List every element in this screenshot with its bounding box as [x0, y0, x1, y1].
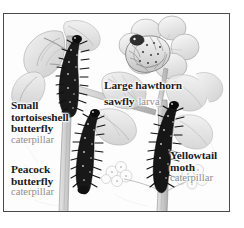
label-small-tortoiseshell-line1: Small: [11, 100, 103, 112]
label-yellowtail-moth: Yellowtail moth caterpillar: [170, 150, 230, 184]
label-small-tortoiseshell-stage: caterpillar: [11, 135, 103, 146]
label-peacock-butterfly: Peacock butterfly caterpillar: [11, 164, 103, 198]
label-yellowtail-line1: Yellowtail: [170, 150, 230, 162]
label-small-tortoiseshell: Small tortoiseshell butterfly caterpilla…: [11, 100, 103, 146]
label-large-hawthorn-line2: sawfly: [104, 95, 134, 107]
label-large-hawthorn-sawfly: Large hawthorn sawfly larva: [104, 80, 226, 108]
illustration-figure: Small tortoiseshell butterfly caterpilla…: [0, 0, 244, 228]
label-large-hawthorn-stage: larva: [138, 96, 159, 107]
label-peacock-line1: Peacock: [11, 164, 103, 176]
plate-frame: Small tortoiseshell butterfly caterpilla…: [3, 13, 230, 212]
label-peacock-stage: caterpillar: [11, 187, 103, 198]
label-yellowtail-stage: caterpillar: [170, 173, 230, 184]
label-large-hawthorn-line1: Large hawthorn: [104, 80, 226, 92]
